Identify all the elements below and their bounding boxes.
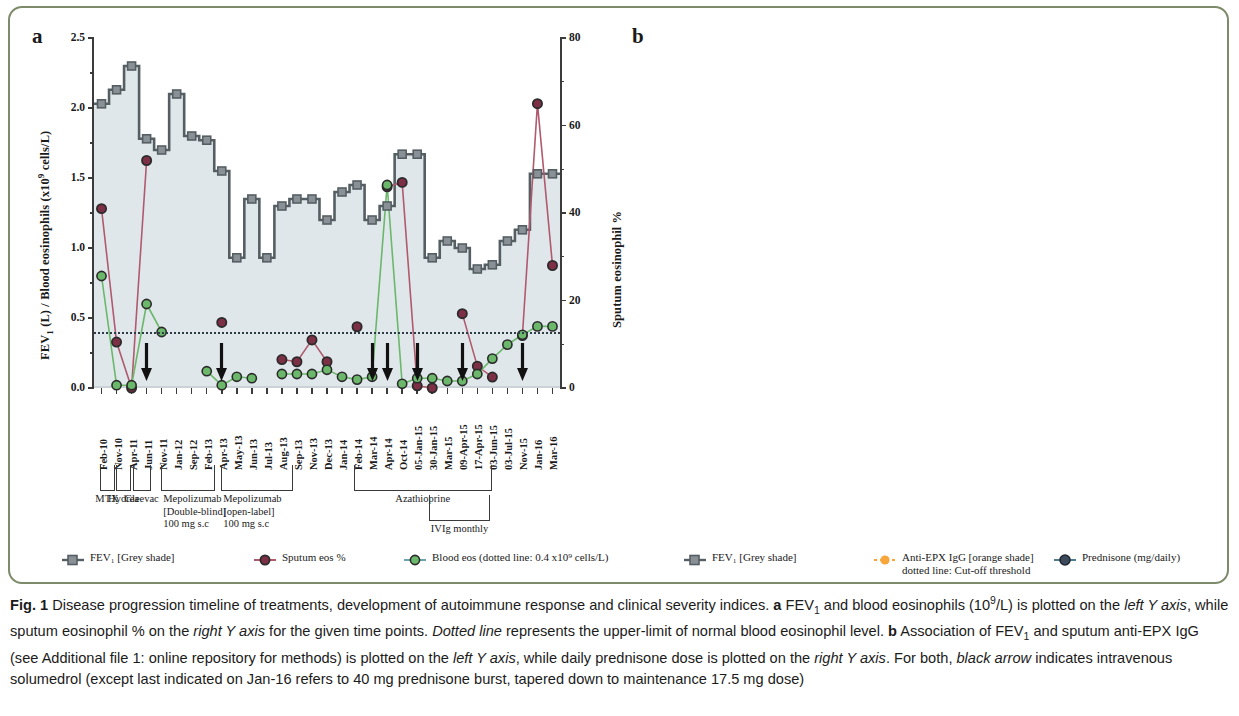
panel-b-letter: b (632, 24, 644, 49)
treatment-bracket (429, 495, 491, 521)
blood-eos-circle-marker (337, 372, 346, 381)
y-left-tick-label: 2.5 (71, 31, 85, 43)
fev1-square-marker (413, 150, 421, 158)
x-axis-tick-label: Dec-13 (323, 400, 334, 470)
x-axis-tick (161, 388, 163, 394)
treatment-bracket-label: Gleevac (124, 493, 158, 506)
blood-eos-circle-marker (307, 369, 316, 378)
x-axis-tick (462, 388, 464, 394)
x-axis-tick-label: 17-Apr-15 (473, 400, 484, 470)
x-axis-tick-label: Feb-10 (98, 400, 109, 470)
sputum-eos-circle-marker (548, 261, 557, 270)
y-left-tick-label: 2.0 (71, 101, 85, 113)
fev1-square-marker (233, 254, 241, 262)
blood-eos-circle-marker (277, 369, 286, 378)
solumedrol-arrow-icon (366, 343, 379, 383)
legend-label: Prednisone (mg/daily) (1082, 550, 1180, 564)
y-left-tick-label: 1.0 (71, 241, 85, 253)
x-axis-tick (522, 388, 524, 394)
sputum-eos-circle-marker (488, 372, 497, 381)
x-axis-tick-label: Mar-16 (548, 400, 559, 470)
y-right-tick-label: 40 (569, 206, 581, 218)
figure-caption: Fig. 1 Disease progression timeline of t… (10, 590, 1229, 691)
sputum-eos-circle-marker (142, 156, 151, 165)
y-right-tick-label: 0 (569, 381, 575, 393)
solumedrol-arrow-icon (411, 343, 424, 383)
x-axis-tick (191, 388, 193, 394)
fev1-square-marker (293, 195, 301, 203)
treatment-bracket (161, 465, 215, 491)
blood-eos-circle-marker (398, 379, 407, 388)
solumedrol-arrow-icon (516, 343, 529, 383)
caption-i2: right Y axis (193, 623, 265, 639)
caption-i4: left Y axis (453, 650, 516, 666)
blood-eos-circle-marker (533, 322, 542, 331)
blood-eos-circle-marker (142, 299, 151, 308)
fev1-square-marker (158, 146, 166, 154)
x-axis-tick (386, 388, 388, 394)
x-axis-tick-label: May-13 (233, 400, 244, 470)
x-axis-tick (311, 388, 313, 394)
y-left-tick-label: 0.0 (71, 381, 85, 393)
blood-eos-circle-marker (127, 381, 136, 390)
x-axis-tick-label: 09-Apr-15 (458, 400, 469, 470)
fev1-square-marker (533, 170, 541, 178)
fev1-square-marker (548, 170, 556, 178)
fev1-square-marker (503, 237, 511, 245)
x-axis-tick (236, 388, 238, 394)
fev1-square-marker (458, 244, 466, 252)
fev1-square-marker (143, 135, 151, 143)
legend-entry: Blood eos (dotted line: 0.4 x10⁹ cells/L… (404, 550, 608, 570)
blood-eos-circle-marker (352, 375, 361, 384)
fev1-square-marker (383, 202, 391, 210)
legend-label: FEV₁ [Grey shade] (90, 550, 174, 564)
caption-i5: right Y axis (814, 650, 886, 666)
y-right-tick (560, 300, 566, 302)
figure-container: a FEV1 (L) / Blood eosinophils (x109 cel… (0, 0, 1239, 716)
x-axis-tick-label: Nov-13 (308, 400, 319, 470)
fev1-square-marker (278, 202, 286, 210)
fev1-square-marker (443, 237, 451, 245)
panel-a-letter: a (32, 24, 43, 49)
x-axis-tick-label: Nov-11 (158, 400, 169, 470)
fev1-square-marker (428, 254, 436, 262)
x-axis-tick (281, 388, 283, 394)
caption-b-marker: b (888, 623, 897, 639)
x-axis-tick-label: Jan-12 (173, 400, 184, 470)
x-axis-tick (206, 388, 208, 394)
blood-eos-circle-marker (488, 354, 497, 363)
caption-i3: Dotted line (432, 623, 502, 639)
fev1-square-marker (263, 254, 271, 262)
prednisone-circle-marker (1054, 552, 1076, 570)
sputum-eos-circle-marker (533, 99, 542, 108)
x-axis-tick (341, 388, 343, 394)
x-axis-tick-label: Sep-13 (293, 400, 304, 470)
fev1-square-marker (473, 265, 481, 273)
caption-p1: Disease progression timeline of treatmen… (52, 597, 773, 613)
y-right-tick-label: 80 (569, 31, 581, 43)
legend-label: Sputum eos % (282, 550, 346, 564)
y-left-title-mid: (L) / Blood eosinophils (x10 (38, 178, 52, 330)
cutoff-threshold-line (94, 332, 560, 334)
y-left-title-sup: 9 (36, 174, 46, 179)
fev1-square-marker (188, 132, 196, 140)
x-axis-tick-label: 30-Jan-15 (428, 400, 439, 470)
blood-eos-circle-marker (202, 367, 211, 376)
x-axis-tick (176, 388, 178, 394)
x-axis-tick (101, 388, 103, 394)
anti-epx-circle-marker (874, 552, 896, 570)
sputum-eos-circle-marker (112, 337, 121, 346)
x-axis-tick-label: Feb-13 (203, 400, 214, 470)
y-right-tick (560, 387, 566, 389)
blood-eos-circle-marker (292, 369, 301, 378)
solumedrol-arrow-icon (381, 343, 394, 383)
treatment-bracket-label: Mepolizumab [open-label] 100 mg s.c (223, 493, 343, 531)
sputum-eos-circle-marker (254, 552, 276, 570)
panel-a-legend: FEV₁ [Grey shade]Sputum eos %Blood eos (… (14, 550, 624, 584)
legend-entry: FEV₁ [Grey shade] (684, 550, 796, 570)
x-axis-tick-label: Jan-16 (533, 400, 544, 470)
treatment-bracket (221, 465, 293, 491)
panel-a: a FEV1 (L) / Blood eosinophils (x109 cel… (14, 10, 624, 580)
x-axis-tick-label: 03-Jun-15 (488, 400, 499, 470)
blood-eos-circle-marker (503, 340, 512, 349)
